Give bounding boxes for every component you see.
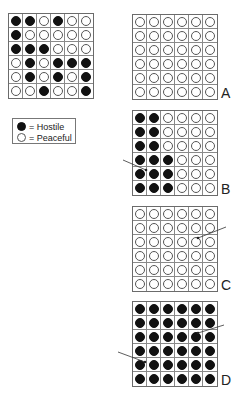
peaceful-circle-icon <box>205 113 215 123</box>
grid-cell <box>161 249 175 263</box>
grid-cell <box>133 29 147 43</box>
grid-cell <box>161 111 175 125</box>
grid-cell <box>147 139 161 153</box>
hostile-circle-icon <box>149 155 159 165</box>
grid-cell <box>189 277 203 291</box>
peaceful-circle-icon <box>205 73 215 83</box>
grid-cell <box>133 71 147 85</box>
grid-cell <box>161 207 175 221</box>
legend-hostile-label: = Hostile <box>29 122 64 132</box>
hostile-circle-icon <box>135 183 145 193</box>
grid-cell <box>133 277 147 291</box>
grid-cell <box>203 358 217 372</box>
grid-cell <box>161 43 175 57</box>
grid-cell <box>189 221 203 235</box>
grid-cell <box>175 125 189 139</box>
hostile-circle-icon <box>163 318 173 328</box>
hostile-circle-icon <box>149 141 159 151</box>
peaceful-circle-icon <box>135 251 145 261</box>
hostile-circle-icon <box>177 332 187 342</box>
peaceful-circle-icon <box>177 265 187 275</box>
grid-cell <box>175 344 189 358</box>
grid-cell <box>175 316 189 330</box>
peaceful-circle-icon <box>177 251 187 261</box>
peaceful-circle-icon <box>149 87 159 97</box>
grid-cell <box>203 207 217 221</box>
peaceful-circle-icon <box>177 279 187 289</box>
grid-cell <box>133 249 147 263</box>
grid-cell <box>203 57 217 71</box>
grid-cell <box>175 111 189 125</box>
grid-d <box>132 301 218 387</box>
peaceful-circle-icon <box>191 31 201 41</box>
grid-cell <box>175 57 189 71</box>
grid-cell <box>203 302 217 316</box>
grid-cell <box>189 249 203 263</box>
peaceful-circle-icon <box>177 169 187 179</box>
peaceful-circle-icon <box>205 279 215 289</box>
peaceful-circle-icon <box>81 44 91 54</box>
hostile-circle-icon <box>135 374 145 384</box>
peaceful-circle-icon <box>163 251 173 261</box>
grid-b <box>132 110 218 196</box>
hostile-circle-icon <box>25 58 35 68</box>
peaceful-circle-icon <box>205 17 215 27</box>
peaceful-circle-icon <box>163 59 173 69</box>
peaceful-circle-icon <box>135 73 145 83</box>
grid-cell <box>175 139 189 153</box>
peaceful-circle-icon <box>149 45 159 55</box>
grid-cell <box>203 153 217 167</box>
grid-cell <box>147 71 161 85</box>
hostile-circle-icon <box>149 127 159 137</box>
grid-cell <box>133 358 147 372</box>
hostile-circle-icon <box>163 332 173 342</box>
grid-cell <box>133 111 147 125</box>
peaceful-circle-icon <box>205 87 215 97</box>
grid-cell <box>203 43 217 57</box>
peaceful-circle-icon <box>191 45 201 55</box>
grid-cell <box>23 70 37 84</box>
peaceful-circle-icon <box>205 141 215 151</box>
grid-cell <box>161 235 175 249</box>
grid-cell <box>147 302 161 316</box>
peaceful-circle-icon <box>11 86 21 96</box>
hostile-circle-icon <box>135 155 145 165</box>
legend-item-peaceful: = Peaceful <box>17 132 75 143</box>
peaceful-circle-icon <box>163 31 173 41</box>
grid-cell <box>189 358 203 372</box>
hostile-circle-icon <box>11 16 21 26</box>
grid-cell <box>189 43 203 57</box>
peaceful-circle-icon <box>163 279 173 289</box>
hostile-circle-icon <box>149 169 159 179</box>
peaceful-circle-icon <box>163 17 173 27</box>
peaceful-circle-icon <box>205 59 215 69</box>
peaceful-circle-icon <box>163 73 173 83</box>
peaceful-circle-icon <box>177 209 187 219</box>
hostile-circle-icon <box>67 58 77 68</box>
hostile-circle-icon <box>177 304 187 314</box>
grid-cell <box>161 153 175 167</box>
grid-cell <box>189 29 203 43</box>
grid-cell <box>175 358 189 372</box>
grid-cell <box>175 181 189 195</box>
grid-cell <box>147 235 161 249</box>
hostile-circle-icon <box>163 346 173 356</box>
grid-cell <box>161 181 175 195</box>
peaceful-circle-icon <box>25 30 35 40</box>
peaceful-circle-icon <box>191 279 201 289</box>
grid-cell <box>65 28 79 42</box>
grid-cell <box>203 15 217 29</box>
peaceful-circle-icon <box>149 73 159 83</box>
hostile-circle-icon <box>53 72 63 82</box>
grid-cell <box>161 85 175 99</box>
grid-cell <box>147 29 161 43</box>
peaceful-circle-icon <box>39 72 49 82</box>
hostile-circle-icon <box>39 86 49 96</box>
hostile-circle-icon <box>163 360 173 370</box>
peaceful-circle-icon <box>67 30 77 40</box>
hostile-circle-icon <box>25 44 35 54</box>
hostile-circle-icon <box>135 141 145 151</box>
grid-cell <box>161 330 175 344</box>
hostile-circle-icon <box>39 44 49 54</box>
peaceful-circle-icon <box>135 59 145 69</box>
